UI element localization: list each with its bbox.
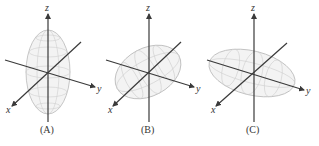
x-label-c: x: [210, 104, 216, 115]
caption-b: (B): [141, 124, 154, 136]
panel-c: z y x (C): [204, 2, 311, 136]
z-label-a: z: [44, 2, 49, 13]
y-label-a: y: [96, 83, 102, 94]
z-label-b: z: [145, 2, 150, 13]
caption-a: (A): [40, 124, 54, 136]
y-label-c: y: [305, 85, 311, 96]
panel-b: z y x (B): [106, 2, 201, 136]
z-label-c: z: [250, 2, 255, 13]
panel-a: z y x (A): [5, 2, 102, 136]
x-label-a: x: [5, 104, 11, 115]
ellipsoid-c: [204, 41, 300, 105]
x-label-b: x: [107, 104, 113, 115]
caption-c: (C): [246, 124, 259, 136]
y-label-b: y: [195, 83, 201, 94]
ellipsoid-figure: z y x (A) z y x (B) z y: [0, 0, 319, 146]
